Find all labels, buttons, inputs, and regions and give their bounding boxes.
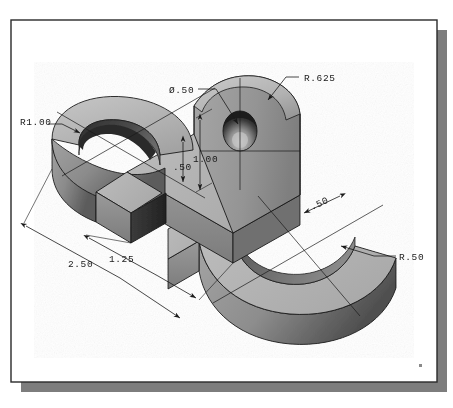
dim-label-r1-00: R1.00 bbox=[20, 117, 52, 128]
sheet-corner-mark bbox=[419, 364, 422, 367]
dim-label-50-height: .50 bbox=[173, 162, 192, 173]
dim-label-r-625: R.625 bbox=[304, 73, 336, 84]
dim-label-1-25: 1.25 bbox=[109, 254, 134, 265]
dim-label-2-50: 2.50 bbox=[68, 259, 93, 270]
drawing-sheet: R1.00 Ø.50 R.625 1.00 .50 .50 1.25 2.50 … bbox=[0, 0, 453, 408]
isometric-drawing-canvas: R1.00 Ø.50 R.625 1.00 .50 .50 1.25 2.50 … bbox=[0, 0, 453, 408]
dim-label-r-50: R.50 bbox=[399, 252, 424, 263]
dim-label-1-00: 1.00 bbox=[193, 154, 218, 165]
dim-label-dia-50: Ø.50 bbox=[169, 85, 194, 96]
